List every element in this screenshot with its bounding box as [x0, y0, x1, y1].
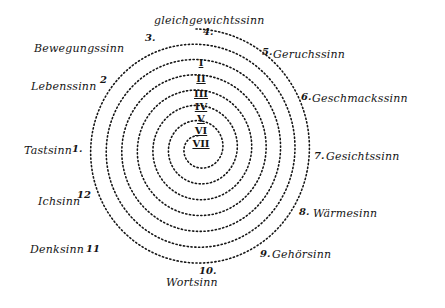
- sense-label-3: Bewegungssinn: [34, 42, 124, 55]
- sense-number-2: 2: [100, 74, 107, 85]
- sense-label-2: Lebenssinn: [31, 80, 96, 93]
- sense-number-1: 1.: [72, 143, 82, 154]
- spiral-turn-5: V: [197, 113, 205, 124]
- spiral-turn-2: II: [196, 73, 205, 84]
- sense-label-7: Gesichtssinn: [326, 150, 400, 163]
- sense-label-10: Wortsinn: [166, 276, 218, 289]
- spiral-turn-4: IV: [195, 101, 207, 112]
- sense-label-9: Gehörsinn: [272, 248, 331, 261]
- spiral-turn-6: VI: [195, 125, 207, 136]
- sense-label-8: Wärmesinn: [313, 207, 377, 220]
- spiral-turn-7: VII: [192, 138, 209, 149]
- sense-label-12: Ichsinn: [38, 195, 80, 208]
- sense-label-6: Geschmackssinn: [312, 92, 408, 105]
- sense-number-9: 9.: [260, 248, 270, 259]
- sense-number-6: 6.: [301, 91, 311, 102]
- sense-label-11: Denksinn: [30, 243, 84, 256]
- sense-number-3: 3.: [145, 32, 155, 43]
- sense-number-11: 11: [86, 243, 100, 254]
- sense-number-12: 12: [77, 189, 91, 200]
- sense-number-10: 10.: [199, 265, 216, 276]
- spiral-turn-1: I: [199, 57, 204, 68]
- sense-number-7: 7.: [314, 150, 324, 161]
- sense-number-8: 8.: [299, 206, 309, 217]
- sense-label-5: Geruchssinn: [273, 48, 345, 61]
- sense-number-5: 5.: [262, 46, 272, 57]
- spiral-turn-3: III: [194, 88, 208, 99]
- sense-number-4: 4.: [203, 26, 213, 37]
- sense-label-1: Tastsinn: [24, 144, 72, 157]
